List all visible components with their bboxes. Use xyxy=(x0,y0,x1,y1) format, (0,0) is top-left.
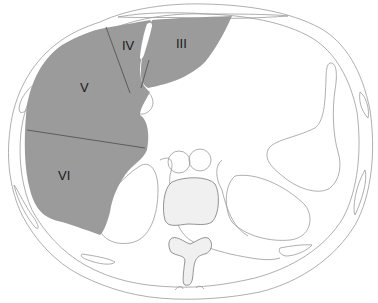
right-paraspinal xyxy=(217,160,248,236)
rib-right-lower xyxy=(354,170,366,215)
left-kidney xyxy=(226,175,310,240)
stomach-outline xyxy=(267,63,340,191)
segment-label-v: V xyxy=(80,81,89,94)
rib-right-bottom xyxy=(279,245,312,256)
liver-segment-iii-lobe xyxy=(141,16,232,88)
rib-right-upper xyxy=(360,92,369,118)
abdomen-cross-section xyxy=(0,0,378,303)
spinous-process xyxy=(169,238,212,286)
segment-label-iv: IV xyxy=(122,39,134,52)
segment-label-vi: VI xyxy=(58,169,70,182)
segment-label-iii: III xyxy=(176,37,187,50)
aorta xyxy=(189,149,211,171)
rib-left-bottom xyxy=(81,254,115,264)
vertebral-body xyxy=(163,178,218,226)
